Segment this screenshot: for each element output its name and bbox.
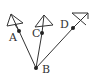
label-B: B <box>42 63 50 75</box>
label-D: D <box>60 18 69 31</box>
point-A <box>17 29 21 33</box>
point-C <box>40 31 44 35</box>
kite-diagram: A C D B <box>0 0 91 75</box>
point-B <box>34 66 38 70</box>
point-D <box>71 26 75 30</box>
kite-D-icon <box>72 13 88 28</box>
label-A: A <box>8 31 18 44</box>
kite-A-icon <box>7 14 23 31</box>
label-C: C <box>32 27 40 40</box>
